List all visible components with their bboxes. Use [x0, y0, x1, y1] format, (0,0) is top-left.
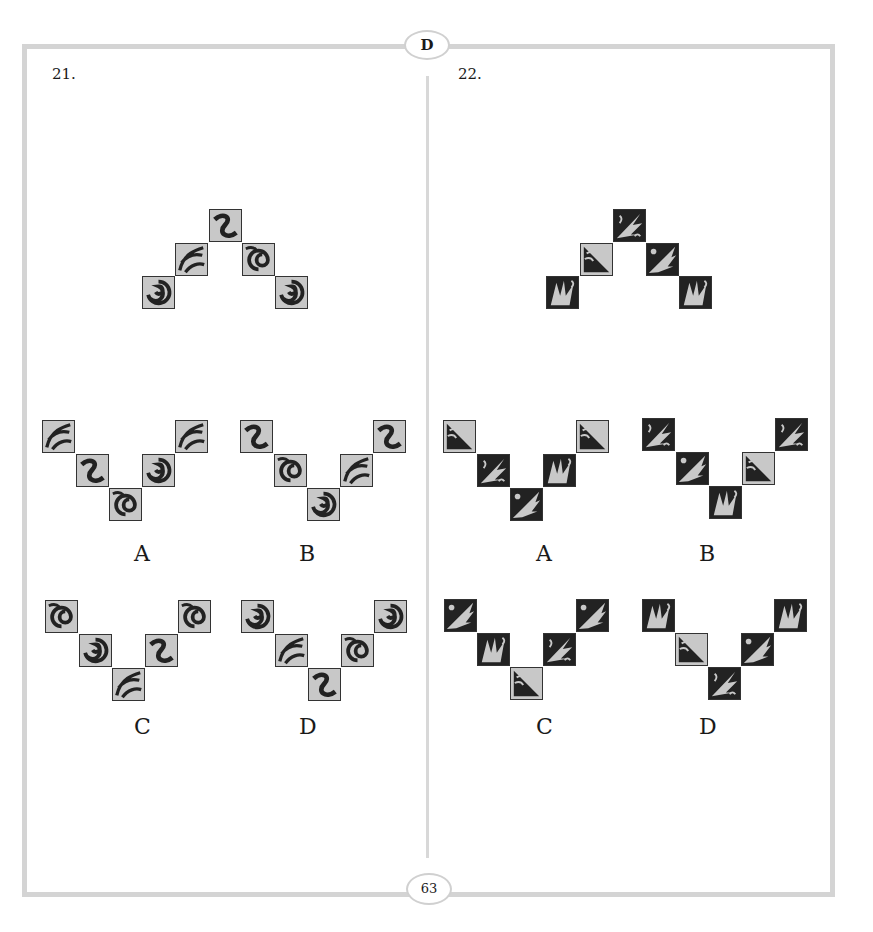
swirl-tile-icon — [178, 600, 211, 633]
spike-tile-icon — [709, 486, 742, 519]
swirl-tile-icon — [42, 420, 75, 453]
question-22-number: 22. — [458, 65, 482, 83]
spike-tile-icon — [708, 667, 741, 700]
swirl-tile-icon — [341, 634, 374, 667]
spike-tile-icon — [477, 633, 510, 666]
spike-tile-icon — [543, 454, 576, 487]
swirl-tile-icon — [242, 243, 275, 276]
swirl-tile-icon — [76, 454, 109, 487]
spike-tile-icon — [742, 452, 775, 485]
option-label: D — [699, 714, 717, 739]
column-divider — [426, 76, 429, 858]
spike-tile-icon — [510, 667, 543, 700]
spike-tile-icon — [443, 420, 476, 453]
spike-tile-icon — [679, 276, 712, 309]
option-label: B — [699, 541, 715, 566]
swirl-tile-icon — [45, 600, 78, 633]
option-label: C — [134, 714, 151, 739]
swirl-tile-icon — [175, 420, 208, 453]
swirl-tile-icon — [307, 488, 340, 521]
swirl-tile-icon — [373, 420, 406, 453]
spike-tile-icon — [576, 420, 609, 453]
swirl-tile-icon — [79, 634, 112, 667]
swirl-tile-icon — [275, 276, 308, 309]
spike-tile-icon — [775, 418, 808, 451]
spike-tile-icon — [642, 599, 675, 632]
section-badge: D — [404, 30, 450, 60]
spike-tile-icon — [646, 243, 679, 276]
spike-tile-icon — [675, 633, 708, 666]
option-label: A — [536, 541, 552, 566]
option-label: D — [299, 714, 317, 739]
swirl-tile-icon — [142, 454, 175, 487]
spike-tile-icon — [510, 488, 543, 521]
swirl-tile-icon — [145, 634, 178, 667]
spike-tile-icon — [546, 276, 579, 309]
option-label: B — [299, 541, 315, 566]
spike-tile-icon — [676, 452, 709, 485]
spike-tile-icon — [741, 633, 774, 666]
question-21-number: 21. — [52, 65, 76, 83]
swirl-tile-icon — [374, 600, 407, 633]
spike-tile-icon — [444, 599, 477, 632]
option-label: A — [134, 541, 150, 566]
spike-tile-icon — [580, 243, 613, 276]
swirl-tile-icon — [109, 488, 142, 521]
page-number: 63 — [406, 873, 452, 905]
spike-tile-icon — [576, 599, 609, 632]
swirl-tile-icon — [275, 634, 308, 667]
spike-tile-icon — [477, 454, 510, 487]
spike-tile-icon — [774, 599, 807, 632]
swirl-tile-icon — [175, 243, 208, 276]
swirl-tile-icon — [209, 209, 242, 242]
spike-tile-icon — [543, 633, 576, 666]
swirl-tile-icon — [112, 668, 145, 701]
swirl-tile-icon — [308, 668, 341, 701]
swirl-tile-icon — [241, 600, 274, 633]
swirl-tile-icon — [240, 420, 273, 453]
option-label: C — [536, 714, 553, 739]
spike-tile-icon — [613, 209, 646, 242]
spike-tile-icon — [642, 418, 675, 451]
swirl-tile-icon — [142, 276, 175, 309]
swirl-tile-icon — [340, 454, 373, 487]
swirl-tile-icon — [274, 454, 307, 487]
